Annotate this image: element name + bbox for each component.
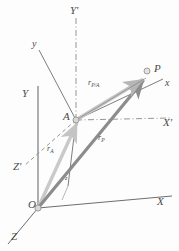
axis-label-Z-prime: Z' [13, 161, 21, 172]
vector-label-rA: rA [47, 145, 54, 153]
diagram-canvas: O A P X Y Z X' Y' Z' x y z rA rP rP/A [0, 0, 179, 251]
vector-label-rP: rP [98, 134, 105, 142]
point-marker-P [144, 68, 150, 74]
axis-label-Z: Z [11, 231, 17, 242]
point-marker-A [73, 117, 79, 123]
axis-label-Y: Y [22, 88, 28, 99]
point-label-A: A [63, 111, 70, 122]
vector-label-rPA-sub: P/A [91, 82, 99, 88]
axis-line-X-prime [76, 118, 170, 120]
vector-label-rPA: rP/A [88, 79, 99, 87]
axis-line-X [38, 196, 172, 208]
vector-label-rP-sub: P [101, 137, 104, 143]
axis-line-z-lower-tail [62, 186, 68, 200]
point-label-O: O [28, 199, 36, 210]
axis-label-y-lower: y [32, 39, 36, 49]
vector-label-rA-sub: A [50, 148, 53, 154]
point-label-P: P [154, 63, 161, 74]
vector-diagram-svg [0, 0, 179, 251]
axis-label-X-prime: X' [163, 117, 172, 128]
axis-line-y-lower [39, 50, 76, 120]
axis-label-z-lower: z [65, 175, 67, 181]
construction-line-A-to-P [76, 78, 146, 120]
axis-label-x-lower: x [165, 78, 169, 88]
axis-label-X: X [157, 196, 164, 207]
axis-label-Y-prime: Y' [70, 5, 78, 16]
vector-rP [38, 81, 143, 208]
